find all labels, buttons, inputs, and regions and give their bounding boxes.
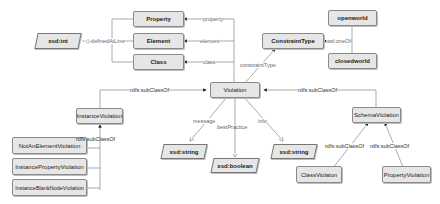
edge-label-subclass-instance-children: rdfs:subClassOf xyxy=(76,136,115,142)
node-violation[interactable]: Violation xyxy=(210,82,260,98)
edge-label-subclass-schema: rdfs:subClassOf xyxy=(298,87,337,93)
edge-label-best-practice: bestPractice xyxy=(217,124,247,130)
node-element[interactable]: Element xyxy=(133,33,184,49)
node-property-violation[interactable]: PropertyViolation xyxy=(382,166,431,183)
edge-label-defined-at-line: ◁-definedAtLine xyxy=(84,38,124,44)
node-xsd-string-message[interactable]: xsd:string xyxy=(162,144,206,159)
edge-label-element: element xyxy=(200,38,220,44)
node-xsd-string-info[interactable]: xsd:string xyxy=(272,144,316,159)
node-property[interactable]: Property xyxy=(133,11,184,27)
node-schema-violation[interactable]: SchemaViolation xyxy=(352,107,401,123)
edge-label-subclass-property-violation: rdfs:subClassOf xyxy=(370,143,409,149)
node-instance-property-violation[interactable]: InstancePropertyViolation xyxy=(12,158,87,175)
edge-label-constraint-type: constraintType xyxy=(240,62,276,68)
edge-label-owl-one-of: owl:oneOf xyxy=(326,38,351,44)
node-xsd-int[interactable]: xsd:int xyxy=(36,33,80,49)
edge-label-info: info xyxy=(258,118,267,124)
node-class[interactable]: Class xyxy=(133,54,184,70)
edge-label-class: class xyxy=(203,59,216,65)
node-xsd-boolean[interactable]: xsd:boolean xyxy=(212,158,258,173)
edge-label-subclass-class-violation: rdfs:subClassOf xyxy=(325,143,364,149)
edge-label-property: property xyxy=(203,16,223,22)
edge-label-subclass-instance: rdfs:subClassOf xyxy=(130,87,169,93)
node-class-violation[interactable]: ClassViolaion xyxy=(296,166,342,183)
node-instance-blank-node-violation[interactable]: InstanceBlankNodeViolation xyxy=(12,179,87,196)
node-instance-violation[interactable]: InstanceViolation xyxy=(76,108,123,124)
node-constraint-type[interactable]: ConstraintType xyxy=(262,33,324,49)
node-openworld[interactable]: openworld xyxy=(328,10,377,26)
node-closedworld[interactable]: closedworld xyxy=(328,53,377,69)
edge-label-message: message xyxy=(193,118,215,124)
